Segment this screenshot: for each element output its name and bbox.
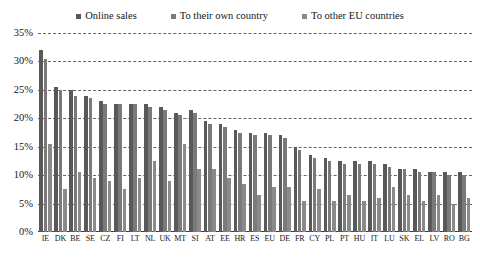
bar[interactable] bbox=[313, 158, 317, 232]
bar[interactable] bbox=[153, 161, 157, 232]
bar[interactable] bbox=[458, 172, 462, 232]
bar[interactable] bbox=[309, 155, 313, 232]
bar[interactable] bbox=[103, 104, 107, 232]
bar-group bbox=[83, 33, 98, 232]
bar[interactable] bbox=[48, 144, 52, 232]
bar[interactable] bbox=[418, 172, 422, 232]
bar[interactable] bbox=[294, 147, 298, 232]
bar[interactable] bbox=[447, 175, 451, 232]
bar[interactable] bbox=[208, 124, 212, 232]
bar[interactable] bbox=[212, 169, 216, 232]
bar[interactable] bbox=[159, 107, 163, 232]
bar[interactable] bbox=[432, 172, 436, 232]
bar[interactable] bbox=[332, 201, 336, 232]
bar[interactable] bbox=[338, 161, 342, 232]
bar[interactable] bbox=[443, 172, 447, 232]
bar[interactable] bbox=[123, 189, 127, 232]
bar[interactable] bbox=[403, 169, 407, 232]
bar[interactable] bbox=[317, 189, 321, 232]
legend-item[interactable]: Online sales bbox=[76, 11, 137, 22]
bar[interactable] bbox=[428, 172, 432, 232]
bar[interactable] bbox=[242, 184, 246, 232]
bar[interactable] bbox=[189, 110, 193, 232]
bar[interactable] bbox=[373, 164, 377, 232]
legend-item[interactable]: To their own country bbox=[171, 11, 268, 22]
bar[interactable] bbox=[78, 172, 82, 232]
bar[interactable] bbox=[264, 133, 268, 233]
bar[interactable] bbox=[193, 113, 197, 232]
legend-item-label: To other EU countries bbox=[311, 11, 404, 22]
bar[interactable] bbox=[398, 169, 402, 232]
bar[interactable] bbox=[392, 187, 396, 232]
bar[interactable] bbox=[138, 178, 142, 232]
bar-group bbox=[68, 33, 83, 232]
bar[interactable] bbox=[302, 201, 306, 232]
bar[interactable] bbox=[272, 187, 276, 232]
bar[interactable] bbox=[343, 164, 347, 232]
bar[interactable] bbox=[234, 130, 238, 232]
y-tick-label: 25% bbox=[0, 85, 33, 96]
bar[interactable] bbox=[39, 50, 43, 232]
bar[interactable] bbox=[54, 87, 58, 232]
bar[interactable] bbox=[407, 195, 411, 232]
bar[interactable] bbox=[84, 96, 88, 232]
bar[interactable] bbox=[59, 90, 63, 232]
bar[interactable] bbox=[238, 133, 242, 233]
bar[interactable] bbox=[163, 110, 167, 232]
bar[interactable] bbox=[227, 178, 231, 232]
bar[interactable] bbox=[148, 107, 152, 232]
bar[interactable] bbox=[257, 195, 261, 232]
bar[interactable] bbox=[377, 198, 381, 232]
bar[interactable] bbox=[287, 187, 291, 232]
bar[interactable] bbox=[279, 135, 283, 232]
bar[interactable] bbox=[467, 198, 471, 232]
y-tick-label: 30% bbox=[0, 56, 33, 67]
bar[interactable] bbox=[253, 135, 257, 232]
bar[interactable] bbox=[133, 104, 137, 232]
bar[interactable] bbox=[249, 133, 253, 233]
bar[interactable] bbox=[63, 189, 67, 232]
bar[interactable] bbox=[268, 135, 272, 232]
legend-item[interactable]: To other EU countries bbox=[302, 11, 404, 22]
bar[interactable] bbox=[118, 104, 122, 232]
bar[interactable] bbox=[298, 150, 302, 232]
bar[interactable] bbox=[108, 181, 112, 232]
bar[interactable] bbox=[99, 101, 103, 232]
bar[interactable] bbox=[219, 124, 223, 232]
bar[interactable] bbox=[388, 167, 392, 232]
bar[interactable] bbox=[437, 195, 441, 232]
bar[interactable] bbox=[74, 96, 78, 232]
bar[interactable] bbox=[129, 104, 133, 232]
bar[interactable] bbox=[93, 178, 97, 232]
bar[interactable] bbox=[174, 113, 178, 232]
bar-group bbox=[128, 33, 143, 232]
bar[interactable] bbox=[328, 161, 332, 232]
bar[interactable] bbox=[358, 164, 362, 232]
bar[interactable] bbox=[368, 161, 372, 232]
legend-swatch-icon bbox=[302, 14, 307, 19]
bar[interactable] bbox=[89, 98, 93, 232]
bar[interactable] bbox=[178, 115, 182, 232]
x-tick-label: PL bbox=[322, 235, 337, 251]
bar[interactable] bbox=[324, 158, 328, 232]
bar[interactable] bbox=[362, 201, 366, 232]
bar[interactable] bbox=[462, 175, 466, 232]
x-tick-label: SK bbox=[397, 235, 412, 251]
bar[interactable] bbox=[44, 59, 48, 232]
bar[interactable] bbox=[413, 169, 417, 232]
bar[interactable] bbox=[114, 104, 118, 232]
bar[interactable] bbox=[204, 121, 208, 232]
bar[interactable] bbox=[197, 169, 201, 232]
bar[interactable] bbox=[347, 195, 351, 232]
bar[interactable] bbox=[353, 161, 357, 232]
bar[interactable] bbox=[383, 164, 387, 232]
bar[interactable] bbox=[144, 104, 148, 232]
bar[interactable] bbox=[168, 181, 172, 232]
x-tick-label: IE bbox=[38, 235, 53, 251]
bar[interactable] bbox=[283, 138, 287, 232]
bar[interactable] bbox=[223, 127, 227, 232]
bar[interactable] bbox=[452, 204, 456, 232]
bar[interactable] bbox=[422, 201, 426, 232]
bar[interactable] bbox=[69, 90, 73, 232]
bar[interactable] bbox=[183, 144, 187, 232]
